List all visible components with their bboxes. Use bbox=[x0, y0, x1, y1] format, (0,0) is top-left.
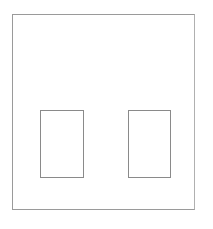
right-pane bbox=[128, 110, 171, 178]
left-pane bbox=[40, 110, 84, 178]
